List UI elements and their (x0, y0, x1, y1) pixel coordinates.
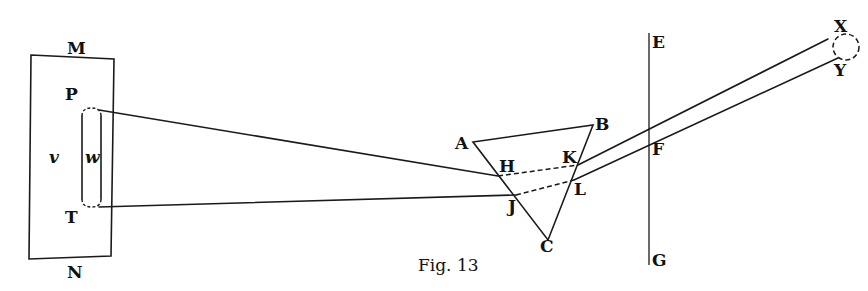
label-m: M (67, 38, 86, 58)
ray-t-to-j (99, 195, 516, 207)
label-j: J (506, 196, 516, 216)
label-b: B (595, 114, 609, 134)
label-n: N (67, 262, 83, 282)
label-c: C (540, 236, 554, 256)
label-x: X (834, 16, 848, 36)
label-w: w (85, 147, 101, 167)
label-k: K (562, 147, 578, 167)
ray-l-to-y (574, 58, 838, 180)
label-h: H (499, 156, 515, 176)
image-circle (833, 34, 859, 60)
label-g: G (652, 250, 667, 270)
label-y: Y (833, 60, 847, 80)
ray-p-to-h (99, 110, 498, 176)
figure-caption: Fig. 13 (418, 255, 479, 275)
label-f: F (652, 139, 664, 159)
internal-ray-j-l (516, 180, 574, 195)
optics-diagram: M N P T v w A B C H K J L E F G X Y Fig.… (0, 0, 868, 291)
label-l: L (574, 179, 586, 199)
ray-k-to-x (578, 39, 828, 165)
label-p: P (65, 84, 78, 104)
label-v: v (49, 147, 60, 167)
label-e: E (652, 32, 665, 52)
label-a: A (454, 133, 469, 153)
label-t: T (65, 207, 78, 227)
